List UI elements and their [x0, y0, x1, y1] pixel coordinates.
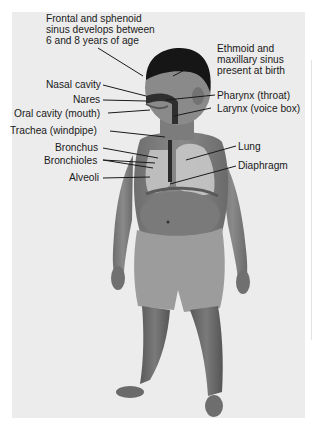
- label-frontal-sphenoid-sinus: Frontal and sphenoid sinus develops betw…: [46, 13, 155, 46]
- label-trachea: Trachea (windpipe): [10, 125, 97, 136]
- label-larynx: Larynx (voice box): [217, 103, 300, 114]
- label-diaphragm: Diaphragm: [238, 160, 288, 171]
- label-line: Ethmoid and: [217, 43, 285, 54]
- label-nares: Nares: [73, 94, 100, 105]
- label-line: present at birth: [217, 65, 285, 76]
- label-oral-cavity: Oral cavity (mouth): [14, 108, 100, 119]
- label-alveoli: Alveoli: [69, 172, 99, 183]
- label-line: sinus develops between: [46, 24, 155, 35]
- label-lung: Lung: [238, 141, 261, 152]
- label-line: Frontal and sphenoid: [46, 13, 155, 24]
- label-line: maxillary sinus: [217, 54, 285, 65]
- label-bronchioles: Bronchioles: [44, 155, 97, 166]
- label-line: 6 and 8 years of age: [46, 35, 155, 46]
- label-nasal-cavity: Nasal cavity: [46, 79, 101, 90]
- label-pharynx: Pharynx (throat): [217, 90, 290, 101]
- label-bronchus: Bronchus: [55, 142, 98, 153]
- label-ethmoid-maxillary-sinus: Ethmoid and maxillary sinus present at b…: [217, 43, 285, 76]
